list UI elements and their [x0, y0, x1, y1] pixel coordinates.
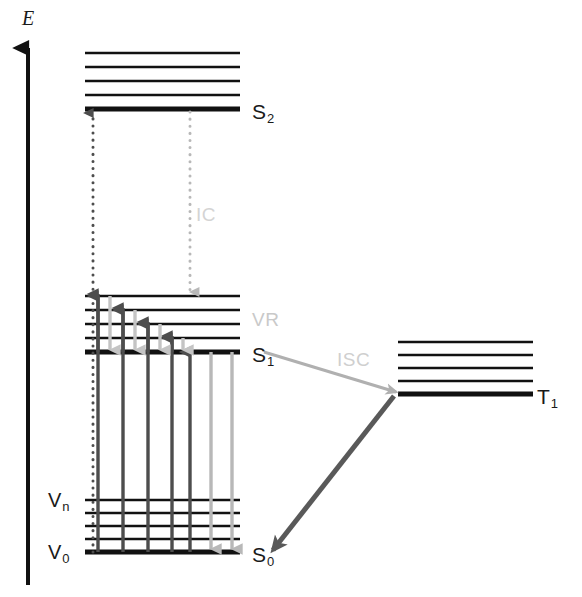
transition-arrows-group	[93, 112, 396, 552]
energy-level-group-t1	[398, 342, 533, 394]
energy-level-group-s0	[85, 500, 240, 552]
energy-levels-group	[85, 53, 533, 552]
vib-level-n-text: V	[48, 489, 61, 511]
state-label-s1: S1	[252, 344, 273, 365]
diagram-canvas	[0, 0, 582, 597]
vib-level-n-label: Vn	[48, 490, 69, 510]
state-label-t1-text: T	[537, 385, 550, 408]
state-label-s2-sub: 2	[267, 111, 274, 126]
state-label-s2-text: S	[252, 100, 266, 123]
vib-level-n-sub: n	[62, 499, 69, 514]
state-label-t1-sub: 1	[551, 396, 558, 411]
state-label-s0-text: S	[252, 543, 266, 566]
energy-level-group-s1	[85, 296, 240, 352]
state-label-s2: S2	[252, 101, 273, 122]
internal-conversion-label: IC	[196, 205, 216, 224]
state-label-s1-text: S	[252, 343, 266, 366]
intersystem-crossing-label: ISC	[337, 350, 370, 369]
energy-level-group-s2	[85, 53, 240, 109]
state-label-s1-sub: 1	[267, 354, 274, 369]
vib-level-0-text: V	[48, 541, 61, 563]
state-label-t1: T1	[537, 386, 557, 407]
jablonski-diagram-figure: E S2 S1 T1 S0 Vn V0 IC VR ISC	[0, 0, 582, 597]
vib-level-0-label: V0	[48, 542, 69, 562]
energy-axis-label: E	[22, 8, 34, 28]
intersystem-crossing-arrow	[264, 352, 396, 392]
vibrational-relaxation-label: VR	[252, 310, 279, 329]
state-label-s0: S0	[252, 544, 273, 565]
vib-level-0-sub: 0	[62, 551, 69, 566]
phosphorescence-arrow	[273, 396, 394, 550]
state-label-s0-sub: 0	[267, 554, 274, 569]
